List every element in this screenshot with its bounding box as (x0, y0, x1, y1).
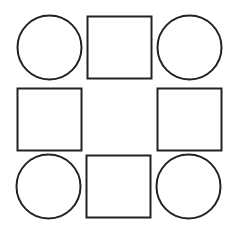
square-bottom-center (87, 156, 151, 218)
square-middle-left (18, 89, 82, 151)
circle-top-left (18, 16, 82, 80)
shape-grid-diagram (0, 0, 233, 228)
circle-bottom-left (17, 155, 81, 219)
square-top-center (88, 17, 152, 79)
circle-top-right (158, 16, 222, 80)
circle-bottom-right (157, 155, 221, 219)
square-middle-right (158, 89, 222, 151)
